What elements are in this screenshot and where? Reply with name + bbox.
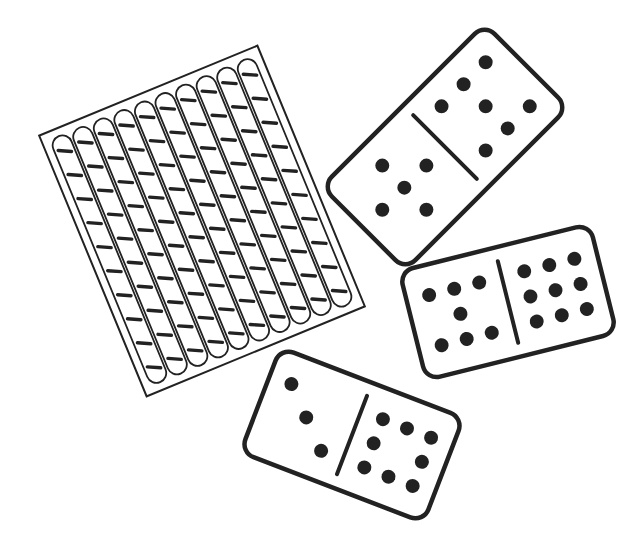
illustration-svg (0, 0, 642, 555)
domino-7-9 (399, 224, 616, 380)
illustration-canvas: Hundred frame and dominoes (0, 0, 642, 555)
hundred-frame (39, 46, 365, 397)
domino-5-7 (322, 24, 568, 270)
